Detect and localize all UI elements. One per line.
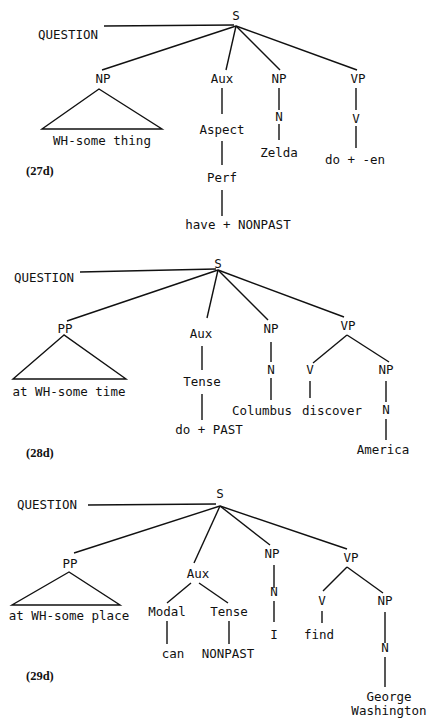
tree-node-washington: Washington <box>351 703 426 718</box>
tree-triangle <box>12 572 120 605</box>
tree-node-vp: VP <box>343 550 358 565</box>
tree-node-v: V <box>306 362 314 377</box>
tree-node-n2: N <box>382 402 390 417</box>
tree-node-n: N <box>275 109 283 124</box>
syntax-tree-diagram: SQUESTIONNPAuxNPVPWH-some thingAspectNVZ… <box>0 0 434 725</box>
tree-branch <box>226 26 236 70</box>
tree-node-npo: NP <box>378 362 393 377</box>
tree-branch <box>167 583 191 603</box>
example-number: (28d) <box>26 446 54 460</box>
tree-branch <box>220 506 347 549</box>
tree-node-i: I <box>270 627 278 642</box>
tree-branch <box>74 506 220 553</box>
tree-node-america: America <box>357 442 410 457</box>
tree-node-npo: NP <box>377 593 392 608</box>
tree-node-np2: NP <box>271 71 286 86</box>
tree-node-q: QUESTION <box>14 270 74 285</box>
tree-branch <box>199 583 228 603</box>
tree-node-aux: Aux <box>190 326 213 341</box>
tree-branch <box>67 270 218 321</box>
tree-branch <box>207 270 218 318</box>
syntax-tree-27d: SQUESTIONNPAuxNPVPWH-some thingAspectNVZ… <box>26 8 385 232</box>
tree-node-zelda: Zelda <box>260 145 298 160</box>
tree-node-modal: Modal <box>148 604 186 619</box>
tree-node-n: N <box>267 362 275 377</box>
tree-node-v: V <box>318 593 326 608</box>
tree-branch <box>236 26 357 70</box>
tree-node-nonpast: NONPAST <box>202 646 255 661</box>
tree-branch <box>323 567 347 591</box>
tree-node-vp: VP <box>350 71 365 86</box>
tree-node-columbus: Columbus <box>232 403 292 418</box>
tree-node-aux: Aux <box>187 566 210 581</box>
tree-node-have: have + NONPAST <box>185 217 291 232</box>
tree-branch <box>218 270 268 320</box>
tree-branch <box>218 270 344 317</box>
tree-branch <box>236 26 280 70</box>
tree-node-doen: do + -en <box>325 152 385 167</box>
tree-triangle <box>13 335 126 379</box>
tree-branch <box>80 269 216 272</box>
example-number: (29d) <box>26 669 54 683</box>
tree-branch <box>347 335 389 362</box>
tree-node-np: NP <box>263 321 278 336</box>
tree-node-np: NP <box>264 546 279 561</box>
tree-node-tense: Tense <box>210 604 248 619</box>
tree-node-discover: discover <box>302 403 363 418</box>
tree-node-n2: N <box>381 640 389 655</box>
tree-node-np1t: WH-some thing <box>53 133 151 148</box>
tree-node-q: QUESTION <box>17 497 77 512</box>
tree-branch <box>220 506 270 545</box>
tree-node-dopast: do + PAST <box>175 422 243 437</box>
tree-node-ppt: at WH-some place <box>9 608 129 623</box>
tree-node-tense: Tense <box>183 374 221 389</box>
tree-node-perf: Perf <box>207 170 237 185</box>
tree-node-s: S <box>214 256 222 271</box>
tree-node-n: N <box>270 584 278 599</box>
tree-node-pp: PP <box>57 321 72 336</box>
tree-branch <box>194 506 220 563</box>
tree-node-pp: PP <box>62 556 77 571</box>
tree-node-s: S <box>232 8 240 23</box>
tree-node-aux: Aux <box>211 71 234 86</box>
tree-node-find: find <box>304 627 334 642</box>
syntax-tree-28d: SQUESTIONPPAuxNPVPat WH-some timeTenseNV… <box>13 256 410 460</box>
tree-branch <box>88 504 216 505</box>
tree-node-v: V <box>352 111 360 126</box>
tree-node-ppt: at WH-some time <box>13 384 126 399</box>
tree-branch <box>347 567 383 593</box>
tree-branch <box>313 335 347 363</box>
tree-node-q: QUESTION <box>38 27 98 42</box>
tree-branch <box>102 26 236 70</box>
example-number: (27d) <box>26 164 54 178</box>
tree-triangle <box>42 89 162 129</box>
tree-branch <box>104 25 234 26</box>
tree-node-can: can <box>162 646 185 661</box>
tree-node-aspect: Aspect <box>199 122 244 137</box>
syntax-tree-29d: SQUESTIONPPAuxNPVPat WH-some placeModalT… <box>9 486 427 718</box>
tree-node-np1: NP <box>95 71 110 86</box>
tree-node-george: George <box>366 689 411 704</box>
tree-node-vp: VP <box>340 318 355 333</box>
tree-node-s: S <box>216 486 224 501</box>
